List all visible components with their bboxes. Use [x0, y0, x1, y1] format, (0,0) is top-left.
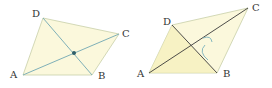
label-a-right: A [136, 68, 145, 79]
quad-left [23, 18, 119, 75]
figure-right: A B C D [136, 2, 260, 79]
figure-left: A B C D [9, 8, 130, 81]
diagram-canvas: A B C D A B C D [0, 0, 272, 88]
label-b-right: B [223, 68, 230, 79]
label-d-right: D [163, 16, 171, 27]
intersection-point [72, 51, 76, 55]
label-d-left: D [32, 8, 40, 19]
label-b-left: B [98, 70, 105, 81]
label-c-right: C [252, 2, 260, 13]
label-c-left: C [122, 28, 130, 39]
label-a-left: A [9, 69, 18, 80]
